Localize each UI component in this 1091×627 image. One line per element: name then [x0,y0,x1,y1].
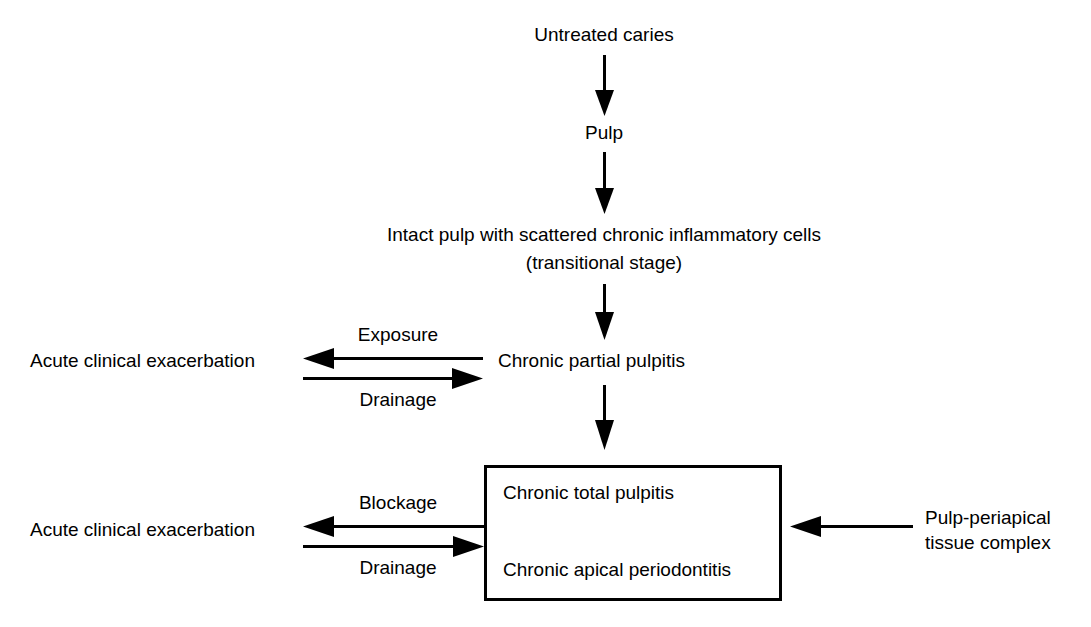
node-transitional-stage-line2: (transitional stage) [526,250,682,275]
node-pulp-periapical-tissue-complex-line2: tissue complex [925,530,1051,555]
arrow-drainage-lower-rightward [303,536,484,557]
edge-label-exposure: Exposure [358,323,438,346]
node-transitional-stage-line1: Intact pulp with scattered chronic infla… [387,222,821,247]
node-acute-clinical-exacerbation-lower: Acute clinical exacerbation [30,517,255,542]
node-chronic-total-pulpitis: Chronic total pulpitis [503,481,674,505]
edge-label-drainage-upper: Drainage [359,388,436,411]
node-untreated-caries: Untreated caries [534,22,673,47]
arrow-drainage-upper-rightward [303,368,483,389]
node-pulp-periapical-tissue-complex-line1: Pulp-periapical [925,505,1051,530]
node-acute-clinical-exacerbation-upper: Acute clinical exacerbation [30,348,255,373]
arrow-exposure-leftward [303,348,483,369]
arrow-chronic-partial-pulpitis-to-box [595,385,614,450]
arrow-transitional-stage-to-chronic-partial-pulpitis [595,284,614,340]
node-pulp: Pulp [585,120,623,145]
node-chronic-partial-pulpitis: Chronic partial pulpitis [498,348,685,373]
node-chronic-apical-periodontitis: Chronic apical periodontitis [503,558,731,582]
arrow-pulp-to-transitional-stage [595,152,614,214]
arrow-untreated-caries-to-pulp [595,55,614,116]
edge-label-drainage-lower: Drainage [359,556,436,579]
edge-label-blockage: Blockage [359,491,437,514]
diagram-canvas: Untreated caries Pulp Intact pulp with s… [0,0,1091,627]
arrow-pulp-periapical-to-box-leftward [790,516,913,537]
arrow-blockage-leftward [303,516,484,537]
